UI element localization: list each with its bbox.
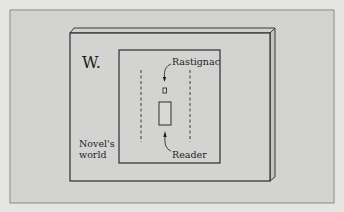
world-label-line2: world	[79, 149, 107, 160]
slab-top-edge	[70, 28, 275, 33]
reader-marker	[159, 102, 171, 125]
slab-label: W.	[82, 53, 101, 72]
reader-label: Reader	[172, 149, 207, 160]
slab-side-edge	[270, 28, 275, 181]
rastignac-marker	[163, 88, 167, 93]
diagram-canvas: W. Rastignac Reader Novel's world	[0, 0, 344, 212]
world-label-line1: Novel's	[79, 138, 115, 149]
rastignac-label: Rastignac	[172, 56, 220, 67]
